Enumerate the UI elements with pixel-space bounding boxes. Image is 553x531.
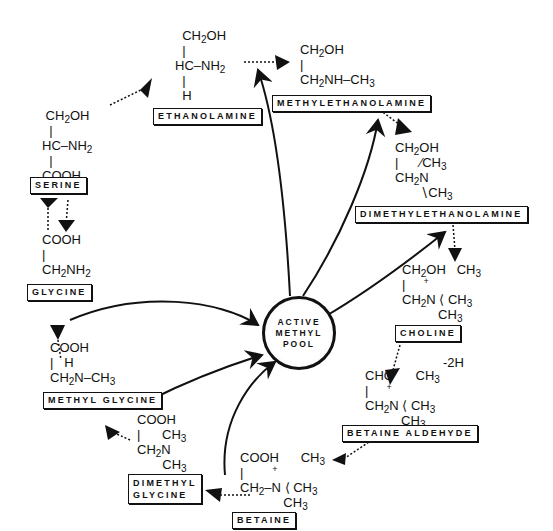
betaine-aldehyde-label: BETAINE ALDEHYDE (342, 425, 478, 442)
choline-formula: CH2OH CH3 | + CH2N ⟨ CH3 CH3 (402, 262, 481, 322)
active-methyl-pool: ACTIVE METHYL POOL (262, 296, 336, 370)
betaine-formula: COOH CH3 | + CH2–N ⟨ CH3 CH3 (240, 450, 325, 510)
ethanolamine-label: ETHANOLAMINE (153, 108, 262, 125)
choline-label: CHOLINE (395, 325, 461, 342)
glycine-formula: COOH | CH2NH2 (42, 232, 91, 277)
methyl-glycine-label: METHYL GLYCINE (43, 392, 162, 409)
dimethylethanolamine-label: DIMETHYLETHANOLAMINE (355, 206, 528, 223)
dehydrogenation-note: -2H (443, 355, 464, 370)
methylethanolamine-label: METHYLETHANOLAMINE (272, 95, 431, 112)
dimethylethanolamine-formula: CH2OH | ∕CH3 CH2N ∖CH3 (395, 140, 461, 200)
betaine-aldehyde-formula: CHO CH3 | + CH2N ⟨ CH3 CH3 (365, 368, 440, 428)
methyl-glycine-formula: COOH | H CH2N–CH3 (50, 340, 115, 385)
glycine-label: GLYCINE (27, 284, 92, 301)
dimethyl-glycine-label: DIMETHYL GLYCINE (128, 474, 202, 504)
serine-formula: CH2OH | HC–NH2 | COOH (42, 108, 92, 183)
ethanolamine-formula: CH2OH | HC–NH2 | H (175, 28, 226, 103)
methylethanolamine-formula: CH2OH | CH2NH–CH3 (300, 42, 375, 87)
dimethyl-glycine-formula: COOH | CH3 CH2N CH3 (137, 412, 187, 472)
serine-label: SERINE (30, 177, 87, 194)
betaine-label: BETAINE (232, 512, 296, 529)
